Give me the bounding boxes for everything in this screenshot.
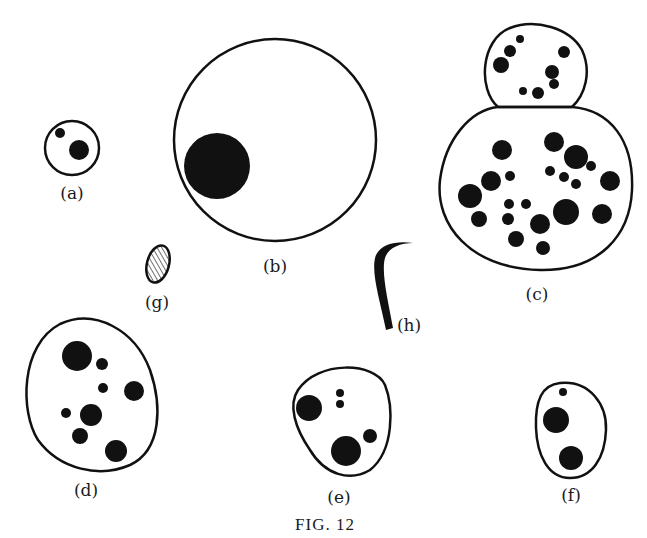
panel-b: (b) (174, 39, 376, 276)
granules (296, 389, 377, 466)
panel-g: (g) (142, 243, 173, 312)
label-c: (c) (526, 284, 549, 304)
granules (458, 35, 620, 255)
hatched-body (142, 243, 173, 285)
panel-f: (f) (536, 383, 606, 505)
nucleus (184, 133, 250, 199)
panel-a: (a) (45, 121, 99, 203)
label-e: (e) (327, 487, 350, 507)
panel-c: (c) (440, 24, 633, 304)
panel-e: (e) (293, 368, 390, 507)
label-f: (f) (561, 485, 581, 505)
label-a: (a) (60, 183, 83, 203)
panel-h: (h) (374, 242, 421, 335)
granules (543, 388, 583, 470)
granule (55, 128, 65, 138)
figure-12-diagram: (a) (b) (0, 0, 647, 538)
granule (69, 140, 89, 160)
label-g: (g) (145, 292, 169, 312)
panel-d: (d) (26, 319, 157, 500)
granules (61, 341, 144, 462)
label-h: (h) (397, 315, 421, 335)
label-b: (b) (263, 256, 287, 276)
label-d: (d) (74, 480, 98, 500)
figure-caption: FIG. 12 (295, 515, 355, 534)
